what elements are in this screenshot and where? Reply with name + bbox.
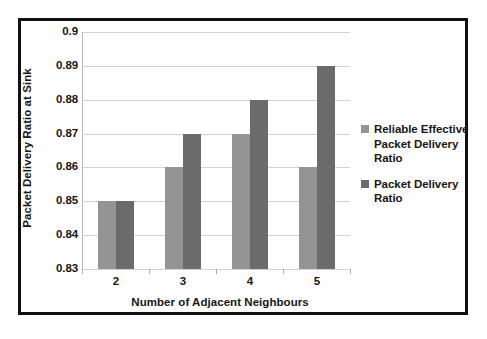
y-axis-title: Packet Delivery Ratio at Sink <box>21 48 33 248</box>
x-axis-tick-label: 4 <box>220 275 280 287</box>
x-axis-tick-label: 3 <box>153 275 213 287</box>
x-axis-tick <box>350 269 351 274</box>
bar <box>183 134 201 269</box>
gridline <box>82 100 350 101</box>
gridline <box>82 66 350 67</box>
x-axis-tick-label: 2 <box>86 275 146 287</box>
y-axis-tick-label: 0.88 <box>4 94 78 105</box>
gridline <box>82 134 350 135</box>
y-axis-tick-label: 0.83 <box>4 263 78 274</box>
legend-label: Reliable Effective Packet Delivery Ratio <box>374 122 471 166</box>
bar <box>299 167 317 269</box>
x-axis-tick <box>149 269 150 274</box>
x-axis-title: Number of Adjacent Neighbours <box>60 296 380 308</box>
bar <box>165 167 183 269</box>
y-axis-tick-label: 0.9 <box>4 26 78 37</box>
legend-label: Packet Delivery Ratio <box>374 177 471 206</box>
plot-area <box>82 32 350 269</box>
chart-figure: 0.830.840.850.860.870.880.890.9 Packet D… <box>0 0 487 339</box>
bar <box>232 134 250 269</box>
x-axis-tick <box>82 269 83 274</box>
gridline <box>82 32 350 33</box>
legend-swatch-icon <box>361 125 369 133</box>
x-axis-tick-label: 5 <box>287 275 347 287</box>
y-axis-tick-label: 0.85 <box>4 195 78 206</box>
bar <box>98 201 116 269</box>
bar <box>116 201 134 269</box>
y-axis-tick-labels: 0.830.840.850.860.870.880.890.9 <box>0 0 78 339</box>
legend-entry[interactable]: Reliable Effective Packet Delivery Ratio <box>361 122 471 166</box>
x-axis-tick <box>216 269 217 274</box>
y-axis-tick-label: 0.86 <box>4 161 78 172</box>
chart-legend: Reliable Effective Packet Delivery Ratio… <box>361 122 471 217</box>
bar <box>250 100 268 269</box>
x-axis-tick <box>283 269 284 274</box>
legend-swatch-icon <box>361 180 369 188</box>
y-axis-tick-label: 0.84 <box>4 229 78 240</box>
legend-entry[interactable]: Packet Delivery Ratio <box>361 177 471 206</box>
bar <box>317 66 335 269</box>
y-axis-tick-label: 0.89 <box>4 60 78 71</box>
y-axis-tick-label: 0.87 <box>4 128 78 139</box>
